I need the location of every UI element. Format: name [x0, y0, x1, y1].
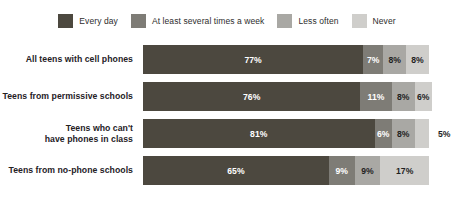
bar-segment[interactable]: 65% [143, 156, 329, 185]
row-label: Teens who can'thave phones in class [0, 123, 143, 144]
legend-item-label: Every day [79, 16, 118, 26]
row-label: All teens with cell phones [0, 54, 143, 65]
bar-segment[interactable]: 9% [355, 156, 381, 185]
segment-value-label: 6% [377, 129, 390, 139]
chart-row: Teens from no-phone schools65%9%9%17% [0, 156, 454, 185]
legend-swatch-several-times-week [131, 14, 146, 28]
bar-segment[interactable]: 8% [392, 82, 415, 111]
bar-segment[interactable]: 8% [383, 45, 406, 74]
segment-value-label: 5% [438, 129, 451, 139]
row-label: Teens from no-phone schools [0, 165, 143, 176]
bar-segment[interactable]: 9% [329, 156, 355, 185]
stacked-bar-chart: Every dayAt least several times a weekLe… [0, 0, 454, 202]
segment-value-label: 76% [243, 92, 260, 102]
bar-area: 65%9%9%17% [143, 156, 454, 185]
bar-area: 81%6%8%5% [143, 119, 454, 148]
bar-segment[interactable]: 6% [415, 82, 432, 111]
legend-item-label: Less often [298, 16, 338, 26]
segment-value-label: 77% [244, 55, 261, 65]
segment-value-label: 8% [397, 92, 410, 102]
stacked-bar: 76%11%8%6% [143, 82, 432, 111]
segment-value-label: 8% [397, 129, 410, 139]
legend-swatch-less-often [277, 14, 292, 28]
row-label-line: All teens with cell phones [0, 54, 133, 65]
segment-value-label: 7% [367, 55, 380, 65]
row-label-line: have phones in class [0, 134, 133, 145]
segment-value-label: 8% [411, 55, 424, 65]
stacked-bar: 81%6%8%5% [143, 119, 429, 148]
bar-segment[interactable]: 7% [363, 45, 383, 74]
legend-swatch-every-day [58, 14, 73, 28]
bar-segment[interactable]: 6% [375, 119, 392, 148]
segment-value-label: 9% [361, 166, 374, 176]
chart-row: Teens who can'thave phones in class81%6%… [0, 119, 454, 148]
legend-item[interactable]: Never [352, 14, 396, 28]
legend-item[interactable]: Every day [58, 14, 118, 28]
segment-value-label: 65% [227, 166, 244, 176]
segment-value-label: 8% [388, 55, 401, 65]
bar-segment[interactable]: 5% [415, 119, 429, 148]
row-label-line: Teens from permissive schools [0, 91, 133, 102]
row-label-line: Teens who can't [0, 123, 133, 134]
legend-item-label: Never [373, 16, 396, 26]
segment-value-label: 11% [368, 92, 385, 102]
bar-segment[interactable]: 11% [360, 82, 391, 111]
chart-row: All teens with cell phones77%7%8%8% [0, 45, 454, 74]
legend-item[interactable]: At least several times a week [131, 14, 265, 28]
bar-area: 76%11%8%6% [143, 82, 454, 111]
row-label: Teens from permissive schools [0, 91, 143, 102]
segment-value-label: 6% [417, 92, 430, 102]
segment-value-label: 81% [250, 129, 267, 139]
legend-item[interactable]: Less often [277, 14, 338, 28]
row-label-line: Teens from no-phone schools [0, 165, 133, 176]
segment-value-label: 9% [335, 166, 348, 176]
chart-rows: All teens with cell phones77%7%8%8%Teens… [0, 45, 454, 185]
chart-row: Teens from permissive schools76%11%8%6% [0, 82, 454, 111]
segment-value-label: 17% [396, 166, 413, 176]
bar-area: 77%7%8%8% [143, 45, 454, 74]
legend-swatch-never [352, 14, 367, 28]
stacked-bar: 65%9%9%17% [143, 156, 429, 185]
chart-legend: Every dayAt least several times a weekLe… [0, 12, 454, 30]
legend-item-label: At least several times a week [152, 16, 265, 26]
bar-segment[interactable]: 77% [143, 45, 363, 74]
bar-segment[interactable]: 8% [392, 119, 415, 148]
stacked-bar: 77%7%8%8% [143, 45, 429, 74]
bar-segment[interactable]: 76% [143, 82, 360, 111]
bar-segment[interactable]: 17% [380, 156, 429, 185]
bar-segment[interactable]: 81% [143, 119, 375, 148]
bar-segment[interactable]: 8% [406, 45, 429, 74]
